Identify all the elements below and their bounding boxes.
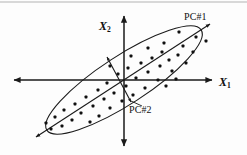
data-point [125,85,128,88]
data-point [163,42,166,45]
data-point [109,107,112,110]
data-point [135,77,138,80]
y-axis-label: X2 [99,20,111,32]
data-point [195,36,198,39]
data-point [144,87,147,90]
data-point [165,85,168,88]
x-axis-label-subscript: 1 [227,81,231,90]
data-point [74,103,77,106]
data-point [161,51,164,54]
data-point [168,59,171,62]
data-point [80,112,83,115]
y-axis-label-subscript: 2 [107,25,111,34]
data-point [147,71,150,74]
data-point [98,115,101,118]
data-point [151,57,154,60]
data-point [130,55,133,58]
y-axis-label-text: X [99,19,107,33]
data-point [54,116,57,119]
data-point [106,82,109,85]
data-point [85,96,88,99]
data-point [132,94,135,97]
pca-diagram-figure: X2 X1 PC#1 PC#2 [0,0,247,155]
data-point [117,73,120,76]
data-point [147,47,150,50]
data-point [177,54,180,57]
data-point [50,128,53,131]
data-point [175,78,178,81]
x-axis-label-text: X [219,75,227,89]
pc2-label: PC#2 [129,105,152,115]
data-point [159,65,162,68]
data-point [109,65,112,68]
data-point [113,92,116,95]
pc1-label: PC#1 [184,12,207,22]
data-point [157,79,160,82]
data-point [71,119,74,122]
coordinate-axes [14,16,212,146]
pca-diagram-canvas [0,0,247,155]
data-point [127,67,130,70]
data-point [182,45,185,48]
data-point [205,40,208,43]
data-point [178,31,181,34]
data-point [92,105,95,108]
data-point [192,51,195,54]
data-point [171,70,174,73]
data-point [97,89,100,92]
data-point [140,62,143,65]
data-point [45,122,48,125]
data-point [121,100,124,103]
data-point [63,109,66,112]
data-point [61,125,64,128]
data-point [103,98,106,101]
data-point [89,121,92,124]
data-point [185,62,188,65]
x-axis-label: X1 [219,76,231,88]
